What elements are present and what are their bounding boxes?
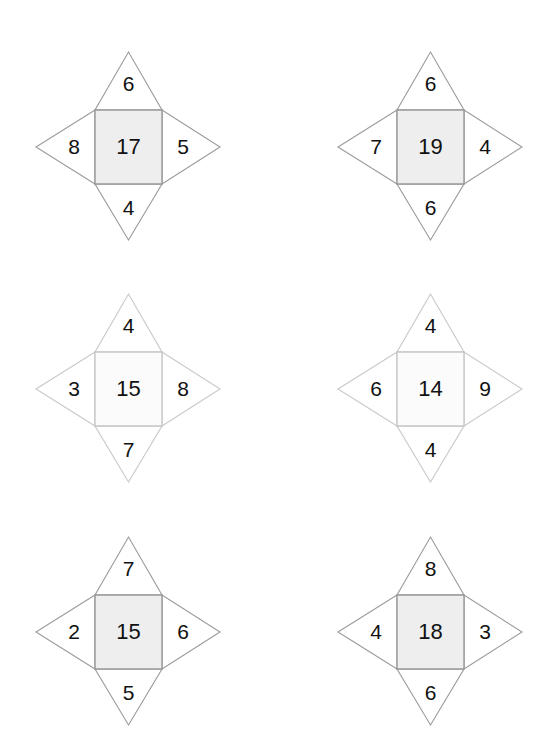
star-point-right [464, 595, 522, 669]
star-bottom-value: 4 [425, 438, 437, 461]
star-figure: 176485 [13, 32, 243, 262]
star-top-value: 7 [123, 557, 135, 580]
star-top-value: 4 [425, 314, 437, 337]
star-left-value: 2 [68, 620, 80, 643]
star-top-value: 4 [123, 314, 135, 337]
star-top-value: 8 [425, 557, 437, 580]
star-right-value: 3 [479, 620, 491, 643]
star-top-value: 6 [425, 72, 437, 95]
star-bottom-value: 7 [123, 438, 135, 461]
star-right-value: 5 [177, 135, 189, 158]
puzzle-grid: 176485196674154738144469157526188643 [0, 0, 557, 739]
star-point-left [36, 595, 95, 669]
star-left-value: 3 [68, 377, 80, 400]
star-center-value: 19 [418, 134, 442, 159]
star-point-right [464, 352, 522, 426]
star-left-value: 4 [370, 620, 382, 643]
star-point-left [338, 352, 397, 426]
star-figure: 154738 [13, 274, 243, 504]
star-point-right [464, 110, 522, 184]
star-bottom-value: 6 [425, 196, 437, 219]
star-right-value: 8 [177, 377, 189, 400]
star-center-value: 14 [418, 376, 442, 401]
star-left-value: 7 [370, 135, 382, 158]
star-point-left [338, 595, 397, 669]
star-top-value: 6 [123, 72, 135, 95]
star-figure: 188643 [315, 517, 545, 739]
star-point-right [162, 595, 220, 669]
star-point-left [36, 352, 95, 426]
star-bottom-value: 5 [123, 681, 135, 704]
star-point-left [36, 110, 95, 184]
star-point-left [338, 110, 397, 184]
star-figure: 157526 [13, 517, 243, 739]
star-left-value: 8 [68, 135, 80, 158]
star-center-value: 18 [418, 619, 442, 644]
star-right-value: 9 [479, 377, 491, 400]
star-center-value: 15 [116, 376, 140, 401]
star-center-value: 15 [116, 619, 140, 644]
star-right-value: 4 [479, 135, 491, 158]
star-figure: 196674 [315, 32, 545, 262]
star-center-value: 17 [116, 134, 140, 159]
star-point-right [162, 352, 220, 426]
star-point-right [162, 110, 220, 184]
star-bottom-value: 6 [425, 681, 437, 704]
star-bottom-value: 4 [123, 196, 135, 219]
star-left-value: 6 [370, 377, 382, 400]
star-figure: 144469 [315, 274, 545, 504]
star-right-value: 6 [177, 620, 189, 643]
